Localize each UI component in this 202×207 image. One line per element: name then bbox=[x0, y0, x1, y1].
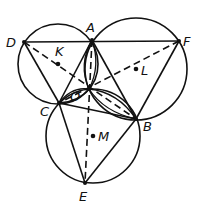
vertex-o bbox=[87, 87, 91, 91]
center-dot-k bbox=[56, 62, 61, 67]
label-d: D bbox=[6, 35, 16, 50]
label-o: O bbox=[70, 89, 80, 104]
circles-group bbox=[18, 18, 187, 183]
center-dot-m bbox=[91, 134, 96, 139]
label-e: E bbox=[79, 189, 88, 204]
vertex-d bbox=[22, 40, 26, 44]
segment-df bbox=[24, 41, 179, 42]
vertex-f bbox=[177, 39, 181, 43]
label-a: A bbox=[85, 20, 95, 35]
label-l: L bbox=[141, 63, 148, 78]
segment-dc bbox=[24, 42, 59, 103]
vertex-e bbox=[83, 181, 87, 185]
label-b: B bbox=[143, 119, 152, 134]
label-m: M bbox=[98, 129, 109, 144]
segment-ab bbox=[92, 40, 136, 119]
vertex-c bbox=[57, 101, 61, 105]
label-c: C bbox=[40, 104, 50, 119]
geometry-diagram: A D F C B E O K L M bbox=[0, 0, 202, 207]
label-k: K bbox=[55, 44, 65, 59]
center-dot-l bbox=[134, 67, 139, 72]
vertex-a bbox=[90, 38, 94, 42]
segment-ce bbox=[59, 103, 85, 183]
vertex-b bbox=[134, 117, 138, 121]
segment-be bbox=[85, 119, 136, 183]
label-f: F bbox=[183, 34, 191, 49]
